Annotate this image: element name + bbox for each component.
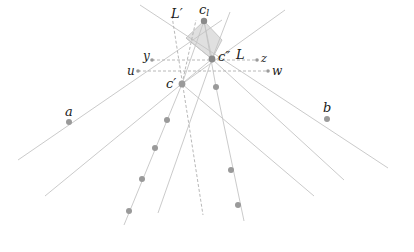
left-chain-point [126, 208, 132, 214]
right-chain-point [235, 202, 241, 208]
label-u: u [127, 64, 135, 78]
label-c-prime: c′ [166, 76, 176, 91]
point-c-double-prime [209, 56, 216, 63]
right-chain-point [213, 84, 219, 90]
label-c-l: cl [199, 2, 209, 18]
left-chain-point [152, 145, 158, 151]
point-w [266, 69, 270, 73]
label-L: L [235, 47, 245, 62]
label-L-prime: L′ [170, 6, 183, 21]
label-w: w [272, 64, 283, 78]
left-chain-point [139, 176, 145, 182]
line-left-chain [124, 84, 182, 225]
line-b-right [140, 5, 388, 168]
line-left-2 [45, 59, 212, 196]
point-y [150, 58, 154, 62]
point-c-l [201, 18, 207, 24]
point-b [324, 116, 330, 122]
point-c-prime [179, 81, 186, 88]
line-right-3 [182, 84, 314, 196]
point-z [255, 58, 259, 62]
point-a [66, 119, 72, 125]
geometry-diagram: cl L′ c″ L z w y u c′ a b [0, 0, 414, 252]
line-vert-right [216, 87, 244, 221]
right-chain-point [228, 167, 234, 173]
label-a: a [65, 104, 73, 119]
label-z: z [260, 52, 267, 65]
left-chain-point [164, 117, 170, 123]
label-y: y [142, 49, 150, 63]
label-b: b [323, 100, 331, 115]
label-c-double-prime: c″ [218, 49, 230, 64]
line-a-left [18, 20, 222, 160]
point-u [136, 69, 140, 73]
shaded-region [186, 21, 222, 59]
